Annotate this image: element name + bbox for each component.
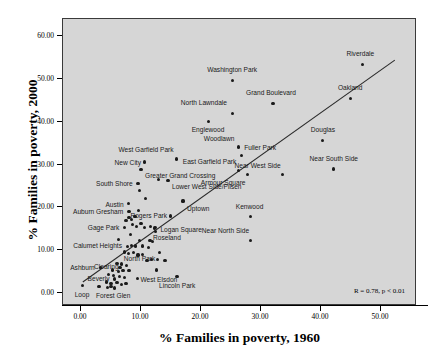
plot-panel: RiverdaleWashington ParkOaklandGrand Bou… [62, 18, 416, 305]
data-point-label: Uptown [187, 206, 209, 213]
x-tick-mark [140, 306, 141, 311]
x-tick-label: 40.00 [300, 312, 340, 321]
data-point-label: Near North Side [202, 228, 249, 235]
data-point-label: West Garfield Park [118, 147, 173, 154]
data-point-label: Woodlawn [204, 136, 235, 143]
data-point-label: New City [115, 160, 141, 167]
x-tick-label: 30.00 [240, 312, 280, 321]
data-point-label: Washington Park [207, 67, 257, 74]
data-point-label: South Shore [96, 181, 133, 188]
y-tick-label: 50.00 [37, 74, 54, 83]
data-point-label: Lower West Side/Pilsen [172, 184, 242, 191]
data-point [134, 244, 137, 247]
x-tick-mark [80, 306, 81, 311]
data-point-label: Logan Square [160, 227, 201, 234]
y-tick-label: 30.00 [37, 160, 54, 169]
x-tick-label: 10.00 [120, 312, 160, 321]
data-point-label: Calumet Heights [73, 243, 122, 250]
data-point [123, 250, 126, 253]
data-point-label: East Garfield Park [183, 159, 237, 166]
data-point-label: North Lawndale [181, 100, 227, 107]
data-point [332, 167, 335, 170]
data-point-label: Douglas [311, 127, 335, 134]
data-point [153, 226, 156, 229]
x-tick-label: 50.00 [360, 312, 400, 321]
data-point [169, 214, 172, 217]
data-point-label: Forest Glen [96, 293, 130, 300]
data-point-label: Oakland [338, 85, 363, 92]
x-tick-label: 0.00 [60, 312, 100, 321]
data-point-label: Englewood [192, 127, 225, 134]
data-point [97, 285, 100, 288]
y-tick-label: 20.00 [37, 202, 54, 211]
data-point-label: Ashburn [70, 265, 95, 272]
data-point [138, 189, 141, 192]
data-point [139, 168, 142, 171]
data-point [136, 277, 139, 280]
data-point [139, 222, 142, 225]
data-point [175, 157, 178, 160]
data-point [271, 102, 274, 105]
data-point [113, 286, 116, 289]
y-tick-label: 0.00 [41, 288, 54, 297]
data-point [155, 268, 158, 271]
x-tick-mark [320, 306, 321, 311]
data-point-label: Riverdale [346, 51, 374, 58]
data-point [124, 282, 127, 285]
data-point-label: Loop [75, 292, 90, 299]
data-point [136, 182, 139, 185]
x-tick-mark [380, 306, 381, 311]
y-tick-label: 40.00 [37, 117, 54, 126]
data-point-label: Grand Boulevard [246, 90, 296, 97]
data-point-label: Gage Park [88, 225, 120, 232]
data-point-label: Fuller Park [244, 145, 276, 152]
data-point-label: Lincoln Park [159, 283, 195, 290]
data-point [124, 219, 127, 222]
data-point [361, 63, 364, 66]
x-tick-mark [260, 306, 261, 311]
data-point [127, 269, 130, 272]
data-point-label: Roseland [153, 235, 181, 242]
y-tick-label: 10.00 [37, 245, 54, 254]
scatter-plot-figure: % Families in poverty, 2000 % Families i… [0, 0, 436, 357]
data-point-label: Near South Side [310, 156, 358, 163]
data-point [163, 259, 166, 262]
data-point-label: Rogers Park [130, 213, 167, 220]
data-point [240, 154, 243, 157]
data-point [181, 199, 184, 202]
y-tick-label: 60.00 [37, 31, 54, 40]
data-point-label: Auburn Gresham [73, 209, 123, 216]
data-point [207, 120, 210, 123]
data-point-label: Beverly [88, 276, 110, 283]
data-point [109, 282, 112, 285]
data-point-label: Clearing [94, 264, 119, 271]
correlation-annotation: R = 0.78, p < 0.01 [354, 287, 405, 295]
data-point [143, 160, 146, 163]
data-point-label: North Park [124, 256, 156, 263]
x-axis-title: % Families in poverty, 1960 [62, 330, 417, 346]
x-tick-label: 20.00 [180, 312, 220, 321]
data-point [118, 275, 121, 278]
data-point-label: Kenwood [236, 204, 264, 211]
data-point [113, 277, 116, 280]
x-tick-mark [200, 306, 201, 311]
data-point-label: Near West Side [235, 163, 281, 170]
